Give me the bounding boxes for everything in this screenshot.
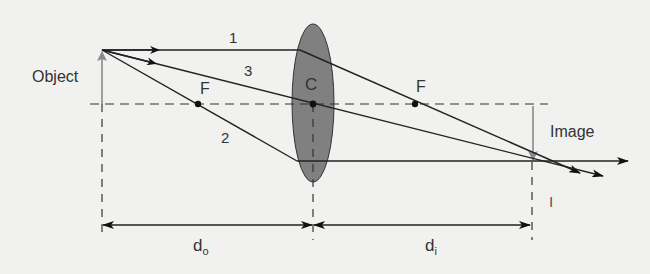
ray-3-arrow <box>102 50 152 63</box>
focal-point-left <box>195 101 201 107</box>
d-object-subscript: o <box>202 245 208 257</box>
inverted-image-marker: I <box>549 194 553 209</box>
lens-center-point <box>310 101 317 108</box>
focal-left-label: F <box>200 81 210 97</box>
lens-center-label: C <box>305 76 317 93</box>
focal-right-label: F <box>416 79 426 95</box>
ray-3 <box>102 50 603 176</box>
ray-2-label: 2 <box>221 130 229 145</box>
d-image-subscript: i <box>434 245 436 257</box>
ray-1-refracted <box>300 50 580 173</box>
ray-diagram: Object Image C F F 1 3 2 I do di <box>0 0 650 274</box>
ray-3-label: 3 <box>244 63 252 78</box>
focal-point-right <box>412 101 418 107</box>
d-image-label: di <box>425 237 437 254</box>
d-object-label: do <box>193 237 209 254</box>
image-label: Image <box>550 124 594 140</box>
object-label: Object <box>32 69 78 85</box>
ray-1-label: 1 <box>229 30 237 45</box>
